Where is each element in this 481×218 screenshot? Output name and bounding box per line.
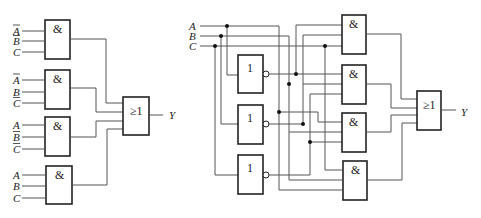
right-and-gate-3: & <box>342 113 366 152</box>
svg-text:C: C <box>13 192 21 204</box>
logic-circuit-diagrams: & A B C & A B C & <box>0 0 481 218</box>
right-and-gate-2: & <box>342 65 366 104</box>
svg-text:A: A <box>12 74 20 86</box>
svg-text:&: & <box>53 119 63 133</box>
svg-text:&: & <box>351 163 361 177</box>
right-circuit: A B C 1 1 1 <box>188 15 469 200</box>
not-gate-b: 1 <box>238 105 269 144</box>
svg-text:1: 1 <box>247 61 253 75</box>
svg-text:C: C <box>13 46 21 58</box>
left-and-gate-3: & A B C <box>12 117 70 156</box>
right-and-gate-4: & <box>343 161 367 200</box>
svg-text:1: 1 <box>247 111 253 125</box>
svg-text:&: & <box>349 67 359 81</box>
svg-text:B: B <box>13 131 20 143</box>
right-or-gate: ≥1 Y <box>417 91 469 130</box>
svg-text:&: & <box>55 168 65 182</box>
left-circuit: & A B C & A B C & <box>12 20 177 204</box>
svg-text:≥1: ≥1 <box>423 98 436 112</box>
left-output-label: Y <box>169 109 177 121</box>
svg-text:1: 1 <box>247 161 253 175</box>
right-and-gate-1: & <box>342 15 366 54</box>
svg-text:&: & <box>349 17 359 31</box>
svg-text:&: & <box>53 22 63 36</box>
not-gate-a: 1 <box>238 55 269 93</box>
svg-text:C: C <box>13 97 21 109</box>
left-or-gate: ≥1 Y <box>123 97 177 135</box>
svg-text:≥1: ≥1 <box>130 104 143 118</box>
svg-text:&: & <box>349 115 359 129</box>
left-and-gate-4: & A B C <box>12 166 72 204</box>
svg-text:B: B <box>13 180 20 192</box>
left-and-gate-1: & A B C <box>12 20 70 59</box>
svg-text:C: C <box>13 143 21 155</box>
svg-text:A: A <box>12 119 20 131</box>
left-and-gate-2: & A B C <box>12 70 70 109</box>
svg-text:C: C <box>189 40 197 52</box>
svg-text:&: & <box>53 72 63 86</box>
not-gate-c: 1 <box>238 155 269 194</box>
right-output-label: Y <box>461 106 469 118</box>
